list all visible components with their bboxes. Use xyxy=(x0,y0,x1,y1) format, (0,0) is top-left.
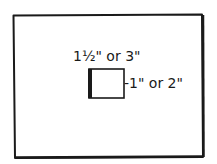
outer-panel-shadow-bottom xyxy=(15,157,203,158)
label-width-annotation: 1½" or 3" xyxy=(73,48,140,64)
label-box-thick-left-edge xyxy=(88,69,92,98)
outer-panel-shadow-right xyxy=(203,15,204,157)
label-height-annotation: -1" or 2" xyxy=(124,75,183,91)
diagram-canvas: 1½" or 3" -1" or 2" xyxy=(0,0,217,164)
label-box xyxy=(89,69,124,98)
